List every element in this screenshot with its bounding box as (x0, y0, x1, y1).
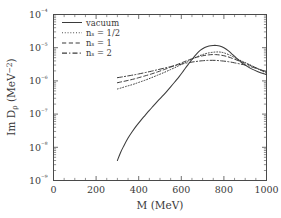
ylabel-im-d: Im D (5, 110, 17, 136)
x-tick-label: 1000 (254, 184, 278, 195)
legend-label-n_s_half: nₛ = 1/2 (86, 28, 120, 38)
figure-container: 02004006008001000 10⁻⁴10⁻⁵10⁻⁶10⁻⁷10⁻⁸10… (0, 0, 281, 218)
legend-label-vacuum: vacuum (85, 18, 119, 28)
x-tick-label: 200 (87, 184, 105, 195)
x-tick-label: 0 (50, 184, 56, 195)
ylabel-unit-close: ) (5, 58, 17, 62)
line-chart: 02004006008001000 10⁻⁴10⁻⁵10⁻⁶10⁻⁷10⁻⁸10… (0, 0, 281, 218)
ylabel-unit-open: (MeV (5, 73, 17, 102)
x-tick-label: 400 (130, 184, 148, 195)
legend-label-n_s_1: nₛ = 1 (86, 38, 112, 48)
x-axis-label: M (MeV) (137, 199, 184, 211)
x-tick-label: 600 (172, 184, 190, 195)
legend-label-n_s_2: nₛ = 2 (86, 48, 112, 58)
ylabel-unit-exponent: −2 (5, 62, 14, 73)
x-tick-label: 800 (215, 184, 233, 195)
